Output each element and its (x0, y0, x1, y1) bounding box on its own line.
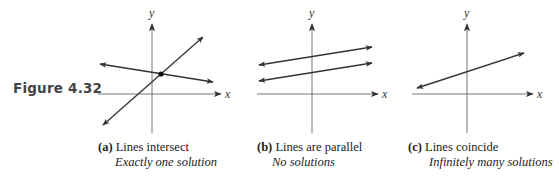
caption-title: Lines are parallel (275, 140, 362, 154)
coincident-lines (417, 53, 524, 88)
line-2 (259, 63, 372, 81)
line-2 (100, 64, 213, 82)
caption-subtitle: Exactly one solution (98, 155, 217, 170)
x-axis-label: x (536, 87, 543, 101)
x-axis-label: x (381, 87, 388, 101)
panel-b-graph: x y (257, 6, 388, 133)
y-axis-label: y (308, 6, 315, 20)
caption-subtitle: No solutions (257, 155, 362, 170)
intersection-point (158, 71, 163, 76)
caption-c: (c) Lines coincide Infinitely many solut… (408, 140, 553, 170)
panel-a-graph: x y (98, 6, 231, 133)
y-axis-label: y (148, 6, 155, 20)
caption-tag: (a) (98, 140, 113, 154)
caption-a: (a) Lines intersect Exactly one solution (98, 140, 217, 170)
caption-tag: (b) (257, 140, 272, 154)
caption-title: Lines coincide (425, 140, 498, 154)
x-axis-label: x (224, 87, 231, 101)
line-1 (103, 37, 203, 125)
caption-tag: (c) (408, 140, 422, 154)
line-1 (259, 47, 372, 65)
caption-b: (b) Lines are parallel No solutions (257, 140, 362, 170)
y-axis-label: y (463, 6, 470, 20)
caption-subtitle: Infinitely many solutions (408, 155, 553, 170)
caption-title: Lines intersect (116, 140, 189, 154)
panel-c-graph: x y (412, 6, 543, 133)
